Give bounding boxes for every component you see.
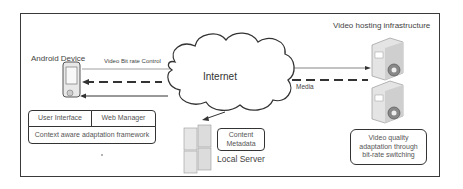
video-quality-box: Video quality adaptation through bit-rat…: [350, 129, 427, 165]
hosting-server-icon-2: [372, 81, 403, 123]
android-device-label: Android Device: [31, 54, 85, 63]
content-metadata-box: Content Metadata: [217, 128, 265, 151]
framework-label: Context aware adaptation framework: [35, 131, 149, 140]
bitrate-control-label: Video Bit rate Control: [104, 58, 161, 64]
local-server-label: Local Server: [217, 154, 265, 164]
content-metadata-label: Content Metadata: [221, 131, 261, 149]
android-device-icon: [63, 62, 80, 97]
web-manager-label: Web Manager: [102, 114, 146, 123]
media-label: Media: [296, 83, 314, 90]
video-hosting-label: Video hosting infrastructure: [333, 21, 430, 30]
hosting-server-icon-1: [372, 38, 403, 80]
user-interface-box: User Interface: [28, 110, 92, 127]
user-interface-label: User Interface: [38, 114, 82, 123]
framework-box: Context aware adaptation framework: [28, 126, 156, 144]
video-quality-label: Video quality adaptation through bit-rat…: [357, 134, 420, 160]
internet-label: Internet: [203, 71, 237, 82]
web-manager-box: Web Manager: [91, 110, 156, 127]
local-server-icon: [184, 125, 211, 173]
